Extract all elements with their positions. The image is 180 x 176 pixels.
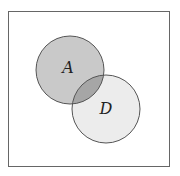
venn-diagram: A D <box>0 0 180 176</box>
set-d-label: D <box>99 99 113 118</box>
set-a-label: A <box>60 58 74 77</box>
